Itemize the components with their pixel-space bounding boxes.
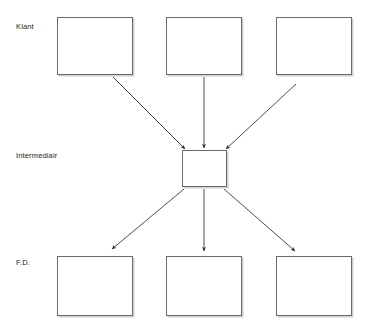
node-box-klant-1[interactable] bbox=[57, 17, 133, 75]
arrow-intermediair-to-fd-1 bbox=[112, 189, 184, 249]
arrow-intermediair-to-fd-3 bbox=[224, 189, 295, 251]
arrow-klant-1-to-intermediair bbox=[113, 77, 185, 149]
row-label-fd: F.D. bbox=[16, 258, 30, 267]
node-box-klant-2[interactable] bbox=[166, 17, 242, 75]
node-box-klant-3[interactable] bbox=[276, 17, 352, 75]
arrow-klant-3-to-intermediair bbox=[226, 84, 296, 149]
row-label-intermediair: Intermediair bbox=[16, 151, 57, 160]
flow-diagram-canvas: Klant Intermediair F.D. bbox=[0, 0, 373, 330]
node-box-fd-2[interactable] bbox=[166, 256, 242, 316]
row-label-klant: Klant bbox=[16, 22, 34, 31]
node-box-intermediair-1[interactable] bbox=[182, 150, 227, 187]
node-box-fd-3[interactable] bbox=[276, 256, 352, 316]
node-box-fd-1[interactable] bbox=[57, 256, 133, 316]
